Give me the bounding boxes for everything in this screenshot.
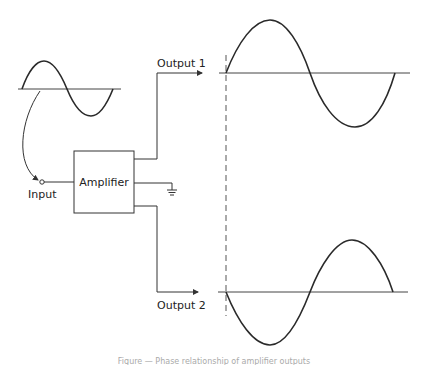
amplifier-block: Amplifier (74, 151, 134, 213)
input-terminal-icon (40, 180, 44, 184)
figure-caption: Figure — Phase relationship of amplifier… (118, 357, 310, 365)
amplifier-label: Amplifier (79, 176, 129, 189)
ground-icon (134, 183, 177, 195)
input-connector-arrow (23, 91, 40, 180)
input-label: Input (28, 188, 57, 201)
input-waveform (18, 61, 121, 116)
output2-waveform (218, 240, 408, 345)
output1-wire (134, 73, 202, 159)
output2-wire (134, 206, 198, 292)
amplifier-phase-diagram: Input Amplifier Output 1 Output 2 Figure… (0, 0, 428, 365)
output2-label: Output 2 (157, 299, 206, 312)
output1-waveform (219, 20, 410, 127)
output1-label: Output 1 (157, 57, 206, 70)
